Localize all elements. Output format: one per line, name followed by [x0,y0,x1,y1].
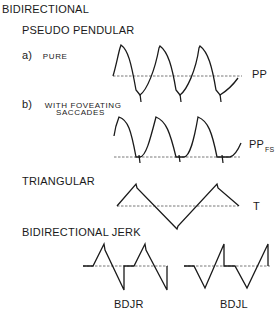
waveforms [0,0,276,314]
ppfs-waveform [114,117,241,163]
pp-waveform [113,45,242,102]
bdjr-waveform [83,244,168,290]
t-waveform [117,184,239,229]
bdjl-waveform [184,244,270,288]
